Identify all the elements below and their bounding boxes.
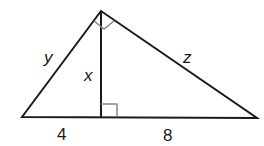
label-y: y — [43, 48, 54, 67]
triangle-outline — [22, 11, 257, 118]
label-z: z — [182, 48, 192, 67]
right-angle-marker-foot — [101, 104, 117, 117]
label-segment-8: 8 — [163, 126, 172, 145]
right-angle-marker-top — [94, 21, 114, 29]
triangle-diagram: y x z 4 8 — [0, 0, 264, 146]
label-x: x — [83, 66, 93, 85]
label-segment-4: 4 — [57, 125, 66, 144]
